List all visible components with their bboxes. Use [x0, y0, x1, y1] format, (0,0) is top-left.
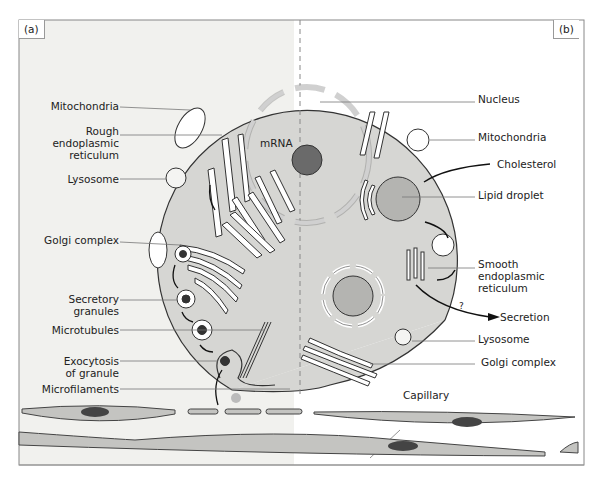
label-golgi-right: Golgi complex: [481, 356, 556, 368]
lipid-droplet-2: [333, 276, 373, 316]
panel-label-b: (b): [553, 20, 579, 39]
lipid-droplet: [376, 177, 420, 221]
label-microtubules: Microtubules: [52, 324, 119, 336]
diagram: (a) (b) Mitochondria Roughendoplasmicret…: [0, 0, 593, 480]
label-golgi-left: Golgi complex: [44, 234, 119, 246]
label-mrna: mRNA: [260, 137, 293, 149]
label-capillary: Capillary: [403, 389, 449, 401]
panel-label-a: (a): [19, 20, 45, 39]
label-secretory-granules: Secretorygranules: [68, 293, 119, 317]
label-microfilaments: Microfilaments: [42, 383, 119, 395]
label-smooth-er: Smoothendoplasmicreticulum: [478, 258, 545, 294]
lysosome-left: [166, 168, 186, 188]
label-nucleus: Nucleus: [478, 93, 520, 105]
label-exocytosis: Exocytosisof granule: [64, 355, 119, 379]
lysosome-right: [395, 329, 411, 345]
label-mitochondria-left: Mitochondria: [51, 100, 119, 112]
label-lipid-droplet: Lipid droplet: [478, 189, 544, 201]
label-question: ?: [459, 300, 464, 312]
label-cholesterol: Cholesterol: [497, 158, 556, 170]
label-mitochondria-right: Mitochondria: [478, 131, 546, 143]
label-rough-er: Roughendoplasmicreticulum: [52, 125, 119, 161]
nucleolus: [292, 145, 322, 175]
label-lysosome-right: Lysosome: [478, 333, 530, 345]
label-lysosome-left: Lysosome: [67, 173, 119, 185]
label-secretion: Secretion: [500, 311, 550, 323]
secretion-arrowhead: [488, 313, 500, 321]
secreted-granule: [231, 393, 241, 403]
